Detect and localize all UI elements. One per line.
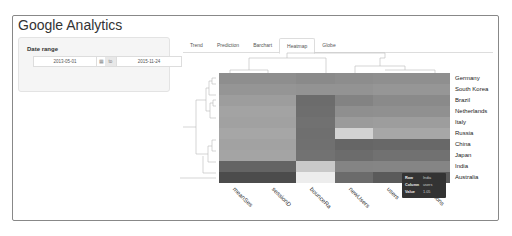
heatmap-cell[interactable] (258, 73, 297, 84)
heatmap-cell[interactable] (296, 106, 335, 117)
heatmap-cell[interactable] (258, 117, 297, 128)
heatmap-cell[interactable] (219, 95, 258, 106)
row-label: Italy (455, 117, 511, 128)
heatmap-cell[interactable] (412, 95, 451, 106)
heatmap-cell[interactable] (258, 84, 297, 95)
heatmap-cell[interactable] (296, 172, 335, 183)
column-label: meanSes (232, 186, 254, 208)
heatmap-cell[interactable] (296, 84, 335, 95)
heatmap-cell[interactable] (373, 106, 412, 117)
row-label: India (455, 161, 511, 172)
heatmap-cell[interactable] (412, 150, 451, 161)
heatmap-cell[interactable] (335, 73, 374, 84)
heatmap-cell[interactable] (412, 106, 451, 117)
row-label: Australia (455, 172, 511, 183)
heatmap-cell[interactable] (219, 150, 258, 161)
heatmap-cell[interactable] (258, 139, 297, 150)
heatmap-cell[interactable] (258, 161, 297, 172)
heatmap-cell[interactable] (296, 128, 335, 139)
heatmap-cell[interactable] (219, 73, 258, 84)
heatmap-cell[interactable] (373, 139, 412, 150)
heatmap-cell[interactable] (296, 150, 335, 161)
heatmap-cell[interactable] (335, 161, 374, 172)
tooltip-value-value: 1.05 (423, 189, 430, 196)
heatmap-cell[interactable] (412, 161, 451, 172)
heatmap-cell[interactable] (412, 128, 451, 139)
heatmap-cell[interactable] (335, 128, 374, 139)
row-label: Germany (455, 73, 511, 84)
heatmap-cell[interactable] (373, 128, 412, 139)
row-label: Netherlands (455, 106, 511, 117)
heatmap-cell[interactable] (335, 106, 374, 117)
heatmap-cell[interactable] (258, 95, 297, 106)
heatmap-cell[interactable] (258, 106, 297, 117)
row-label: South Korea (455, 84, 511, 95)
heatmap-cell[interactable] (219, 139, 258, 150)
heatmap-cell[interactable] (219, 172, 258, 183)
heatmap-cell[interactable] (373, 161, 412, 172)
heatmap-cell[interactable] (219, 106, 258, 117)
heatmap-cell[interactable] (335, 95, 374, 106)
heatmap-cell[interactable] (219, 161, 258, 172)
row-label: Brazil (455, 95, 511, 106)
row-label: Russia (455, 128, 511, 139)
heatmap-cell[interactable] (335, 150, 374, 161)
heatmap-cell[interactable] (296, 73, 335, 84)
heatmap-cell[interactable] (335, 84, 374, 95)
tooltip-value-key: Value (405, 189, 423, 196)
column-label: newUsers (348, 186, 371, 209)
heatmap-cell[interactable] (219, 84, 258, 95)
heatmap-cell[interactable] (373, 84, 412, 95)
heatmap-cell[interactable] (373, 95, 412, 106)
heatmap-cell[interactable] (373, 117, 412, 128)
tooltip-row-value: India (423, 175, 431, 182)
heatmap-cell[interactable] (373, 73, 412, 84)
heatmap-row-labels: GermanySouth KoreaBrazilNetherlandsItaly… (455, 73, 511, 183)
tooltip-column-key: Column (405, 182, 423, 189)
row-label: Japan (455, 150, 511, 161)
heatmap-cell[interactable] (335, 117, 374, 128)
heatmap-cell[interactable] (258, 150, 297, 161)
column-label: users (386, 186, 401, 201)
heatmap-cell[interactable] (258, 172, 297, 183)
tooltip-column-value: users (423, 182, 432, 189)
heatmap-cell[interactable] (373, 150, 412, 161)
heatmap-tooltip: RowIndia Columnusers Value1.05 (402, 173, 446, 198)
tooltip-row-key: Row (405, 175, 423, 182)
heatmap-cell[interactable] (335, 172, 374, 183)
heatmap-cell[interactable] (412, 139, 451, 150)
heatmap-cell[interactable] (412, 117, 451, 128)
heatmap-cell[interactable] (412, 73, 451, 84)
heatmap-cell[interactable] (296, 139, 335, 150)
heatmap-cell[interactable] (219, 117, 258, 128)
heatmap-cell[interactable] (258, 128, 297, 139)
heatmap-cell[interactable] (412, 84, 451, 95)
heatmap-cell[interactable] (219, 128, 258, 139)
heatmap-cell[interactable] (296, 95, 335, 106)
heatmap-cell[interactable] (296, 117, 335, 128)
row-label: China (455, 139, 511, 150)
column-label: sessionD (271, 186, 293, 208)
column-label: bounceRa (309, 186, 333, 210)
heatmap-grid[interactable] (219, 73, 450, 183)
heatmap-cell[interactable] (296, 161, 335, 172)
heatmap-cell[interactable] (335, 139, 374, 150)
